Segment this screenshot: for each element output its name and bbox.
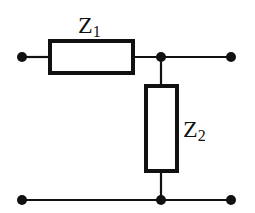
junction-bottom (156, 195, 166, 205)
label-z2: Z2 (183, 116, 206, 144)
terminal-input-top (17, 52, 27, 62)
circuit-diagram: Z1 Z2 (0, 0, 255, 213)
label-z1-main: Z (78, 12, 93, 38)
label-z1-sub: 1 (93, 23, 101, 40)
impedance-z2 (146, 86, 177, 171)
label-z2-main: Z (183, 116, 198, 142)
impedance-z1 (50, 41, 133, 73)
terminal-output-top (226, 52, 236, 62)
junction-top (156, 52, 166, 62)
label-z1: Z1 (78, 12, 101, 40)
terminal-input-bottom (17, 195, 27, 205)
terminal-output-bottom (226, 195, 236, 205)
label-z2-sub: 2 (198, 127, 206, 144)
